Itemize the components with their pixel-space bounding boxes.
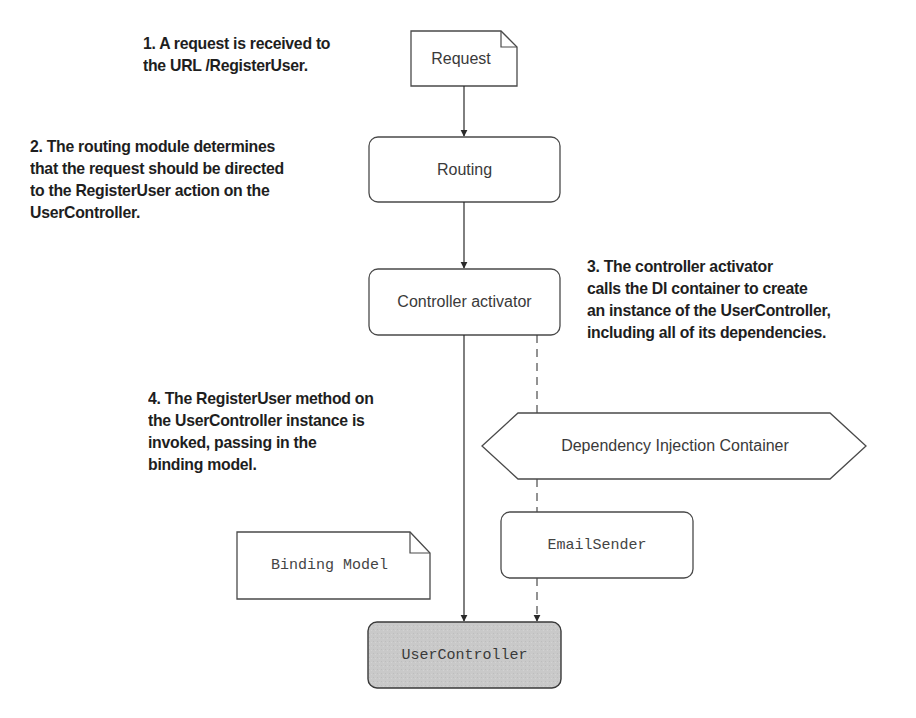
note-step-2: 2. The routing module determines that th… — [30, 136, 284, 224]
request-node-label: Request — [431, 50, 491, 68]
di-flow-diagram: Request Routing Controller activator Dep… — [0, 0, 916, 718]
note-step-4: 4. The RegisterUser method on the UserCo… — [148, 388, 374, 476]
binding-model-node-label: Binding Model — [271, 557, 388, 574]
note-step-3-line: an instance of the UserController, — [587, 300, 831, 322]
routing-node-label: Routing — [437, 161, 492, 179]
note-step-4-line: invoked, passing in the — [148, 432, 374, 454]
di-container-node: Dependency Injection Container — [510, 413, 840, 479]
user-controller-node: UserController — [368, 622, 561, 688]
user-controller-node-label: UserController — [401, 647, 527, 664]
di-container-node-label: Dependency Injection Container — [561, 437, 789, 455]
note-step-3-line: including all of its dependencies. — [587, 322, 831, 344]
note-step-1: 1. A request is received to the URL /Reg… — [143, 33, 330, 77]
note-step-3-line: 3. The controller activator — [587, 256, 831, 278]
routing-node: Routing — [369, 137, 560, 202]
note-step-3-line: calls the DI container to create — [587, 278, 831, 300]
diagram-shapes — [0, 0, 916, 718]
note-step-1-line: 1. A request is received to — [143, 33, 330, 55]
binding-model-node: Binding Model — [237, 532, 422, 599]
note-step-3: 3. The controller activator calls the DI… — [587, 256, 831, 344]
note-step-1-line: the URL /RegisterUser. — [143, 55, 330, 77]
note-step-2-line: to the RegisterUser action on the — [30, 180, 284, 202]
note-step-4-line: 4. The RegisterUser method on — [148, 388, 374, 410]
note-step-2-line: 2. The routing module determines — [30, 136, 284, 158]
note-step-2-line: that the request should be directed — [30, 158, 284, 180]
note-step-4-line: the UserController instance is — [148, 410, 374, 432]
note-step-2-line: UserController. — [30, 202, 284, 224]
controller-activator-node: Controller activator — [369, 269, 560, 335]
controller-activator-node-label: Controller activator — [397, 293, 531, 311]
note-step-4-line: binding model. — [148, 454, 374, 476]
email-sender-node: EmailSender — [501, 512, 693, 578]
request-node: Request — [411, 31, 511, 86]
email-sender-node-label: EmailSender — [547, 537, 646, 554]
